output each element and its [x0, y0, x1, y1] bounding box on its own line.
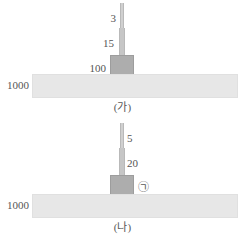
base-bar-ga [32, 74, 238, 98]
middle-stem-na [119, 148, 125, 175]
caption-na: (나) [0, 222, 245, 233]
base-bar-label-ga: 1000 [0, 80, 29, 91]
top-stem-label-na: 5 [127, 133, 133, 144]
top-stem-na [120, 123, 124, 148]
base-bar-na [32, 194, 238, 218]
top-stem-label-ga: 3 [96, 13, 116, 24]
panel-na: 5 20 ㉠ 1000 (나) [0, 120, 245, 240]
block-annotation-na: ㉠ [138, 182, 149, 193]
base-bar-label-na: 1000 [0, 200, 29, 211]
block-label-ga: 100 [74, 63, 106, 74]
figure-root: 3 15 100 1000 (가) 5 20 ㉠ 1000 (나) [0, 0, 245, 240]
middle-stem-label-na: 20 [127, 158, 138, 169]
panel-ga: 3 15 100 1000 (가) [0, 0, 245, 120]
middle-stem-label-ga: 15 [92, 38, 114, 49]
caption-ga: (가) [0, 102, 245, 113]
top-stem-ga [120, 3, 124, 28]
middle-stem-ga [119, 28, 125, 55]
